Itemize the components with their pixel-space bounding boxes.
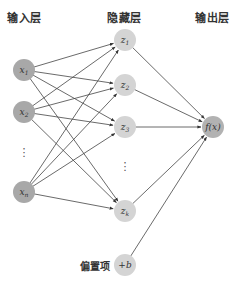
- edge-x2-z1: [32, 47, 115, 106]
- output-node-label: f(x): [204, 122, 221, 132]
- edge-x1-z1: [34, 43, 114, 67]
- edge-x2-z2: [34, 88, 114, 109]
- edge-x2-z3: [34, 113, 113, 125]
- bias-node-label: +b: [118, 260, 132, 270]
- input-node-x2: x2: [13, 101, 35, 123]
- edge-xn-zk: [34, 194, 113, 209]
- edge-xn-z1: [30, 50, 119, 184]
- edge-xn-z2: [31, 94, 117, 185]
- edge-x1-z2: [34, 71, 113, 83]
- edge-z2-fx: [134, 89, 202, 122]
- edges: [30, 43, 207, 256]
- hidden-node-z1: z1: [114, 29, 136, 51]
- edge-x2-zk: [31, 119, 116, 203]
- input-ellipsis: ⋮: [19, 146, 30, 159]
- neural-network-diagram: x1x2xnz1z2z3zk+bf(x) ⋮ ⋮: [0, 0, 239, 283]
- edge-zk-fx: [132, 135, 204, 204]
- input-node-xn: xn: [13, 181, 35, 203]
- edge-b-fx: [130, 137, 206, 256]
- output-node-fx: f(x): [202, 116, 224, 138]
- hidden-node-z3: z3: [114, 116, 136, 138]
- hidden-ellipsis: ⋮: [120, 160, 131, 173]
- hidden-node-zk: zk: [114, 200, 136, 222]
- input-node-x1: x1: [13, 59, 35, 81]
- nodes: x1x2xnz1z2z3zk+bf(x): [13, 29, 224, 276]
- bias-node-b: +b: [114, 254, 136, 276]
- hidden-node-z2: z2: [114, 74, 136, 96]
- edge-z1-fx: [132, 47, 204, 119]
